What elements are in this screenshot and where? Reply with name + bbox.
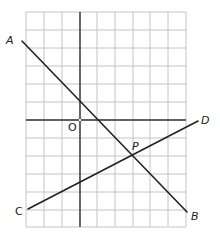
label-c: C <box>15 205 23 218</box>
line-ab <box>22 41 187 212</box>
label-p: P <box>132 140 139 153</box>
label-d: D <box>201 114 209 127</box>
label-o: O <box>68 121 77 134</box>
coordinate-diagram: A B C D O P <box>0 0 220 234</box>
label-a: A <box>5 34 14 47</box>
lines <box>22 41 198 212</box>
axes <box>26 12 186 227</box>
label-b: B <box>191 210 199 223</box>
origin-point <box>78 118 81 121</box>
